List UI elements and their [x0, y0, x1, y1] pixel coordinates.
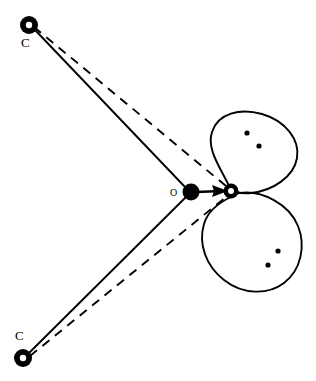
atom-carbon-top-hole: [26, 22, 32, 28]
electron-dot: [265, 262, 270, 267]
lone-pair-lobe-lower: [202, 193, 302, 292]
chemical-structure-diagram: C C O: [0, 0, 316, 381]
atom-carbon-bottom: [14, 349, 32, 367]
atom-carbon-top: [20, 16, 38, 34]
atom-oxygen-displaced: [224, 184, 239, 199]
displacement-arrow: [196, 185, 228, 197]
electron-dot: [244, 130, 249, 135]
label-carbon-top: C: [21, 35, 30, 50]
atom-oxygen-center: [183, 184, 200, 201]
solid-bonds-group: [30, 31, 185, 352]
electron-dot: [256, 143, 261, 148]
atom-carbon-bottom-hole: [20, 355, 26, 361]
electron-dots-upper-group: [244, 130, 261, 148]
atom-oxygen-displaced-hole: [228, 188, 234, 194]
lone-pair-lobes-group: [202, 112, 302, 292]
electron-dots-lower-group: [265, 248, 280, 267]
dashed-bond-carbon-top: [34, 27, 226, 186]
electron-dot: [275, 248, 280, 253]
label-carbon-bottom: C: [15, 328, 24, 343]
diagram-canvas: C C O: [0, 0, 316, 381]
label-oxygen: O: [170, 187, 177, 198]
solid-bond-carbon-top: [36, 31, 185, 187]
solid-bond-carbon-bottom: [30, 198, 185, 352]
dashed-bond-carbon-bottom: [30, 197, 226, 356]
lone-pair-lobe-upper: [211, 112, 298, 194]
